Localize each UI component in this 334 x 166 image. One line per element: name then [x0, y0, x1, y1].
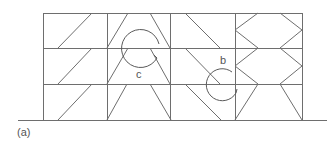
brace-diagonal [235, 13, 258, 30]
brace-diagonal [235, 30, 258, 48]
brace-diagonal [107, 84, 127, 120]
label-b: b [220, 55, 226, 66]
bay3-bracing [185, 13, 221, 120]
brace-diagonal [280, 30, 302, 48]
brace-diagonal [150, 84, 171, 120]
bay1-bracing [58, 13, 92, 120]
brace-diagonal [150, 48, 170, 84]
brace-diagonal [150, 13, 170, 48]
brace-diagonal [280, 48, 302, 66]
brace-diagonal [107, 48, 128, 84]
brace-diagonal [280, 84, 302, 120]
frame-drawing [0, 0, 334, 166]
label-c: c [136, 69, 142, 80]
brace-diagonal [235, 48, 258, 66]
brace-diagonal [235, 66, 258, 84]
braced-frame-diagram: c b (a) [0, 0, 334, 166]
brace-diagonal [58, 84, 92, 120]
brace-diagonal [185, 84, 221, 120]
rotation-arrow-b-tip-icon [236, 89, 237, 93]
frame-grid [43, 13, 303, 120]
brace-diagonal [235, 84, 258, 120]
figure-caption: (a) [17, 127, 30, 138]
brace-diagonal [185, 48, 220, 84]
brace-diagonal [107, 13, 128, 48]
brace-diagonal [185, 13, 220, 48]
brace-diagonal [280, 13, 302, 30]
brace-diagonal [58, 48, 92, 84]
brace-diagonal [280, 66, 302, 84]
brace-diagonal [58, 13, 92, 48]
bay4-bracing [235, 13, 302, 120]
